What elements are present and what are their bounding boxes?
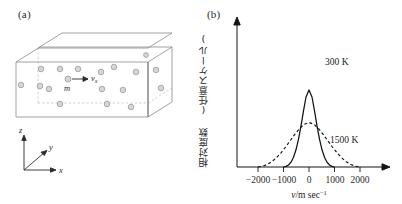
gas-molecule <box>133 69 139 75</box>
axis-label-y: y <box>48 142 53 152</box>
curve-label-1500k: 1500 K <box>330 135 358 145</box>
x-tick-label: −2000 <box>246 175 271 185</box>
mass-label: m <box>64 83 70 93</box>
coordinate-axes <box>22 135 56 172</box>
gas-molecule <box>153 67 159 73</box>
curve-300k <box>284 90 335 167</box>
gas-molecule <box>99 86 105 92</box>
gas-molecule <box>158 85 164 91</box>
y-axis <box>234 17 240 167</box>
axis-label-x: x <box>58 165 63 175</box>
gas-molecule <box>65 76 71 82</box>
gas-molecule <box>120 87 126 93</box>
axis-label-z: z <box>18 125 23 135</box>
x-tick-label: 0 <box>307 175 312 185</box>
gas-molecule <box>18 82 24 88</box>
gas-molecule <box>128 104 134 110</box>
distribution-chart-svg: −2000 −1000 0 1000 2000 v/m sec−1 300 K … <box>196 0 402 204</box>
gas-molecule <box>98 69 104 75</box>
gas-box-svg: vx m z x y <box>0 0 200 204</box>
x-tick-label: 2000 <box>351 175 370 185</box>
x-axis-caption: v/m sec−1 <box>291 189 327 201</box>
gas-molecule <box>111 64 117 70</box>
gas-molecule <box>37 83 43 89</box>
figure-root: (a) <box>0 0 402 204</box>
x-tick-label: 1000 <box>326 175 345 185</box>
gas-molecule <box>57 66 63 72</box>
curve-label-300k: 300 K <box>325 57 349 67</box>
panel-b-velocity-distribution-chart: −2000 −1000 0 1000 2000 v/m sec−1 300 K … <box>196 0 402 204</box>
gas-molecule <box>46 86 52 92</box>
gas-molecule <box>38 66 44 72</box>
velocity-label: vx <box>91 73 98 84</box>
panel-a-gas-box-diagram: vx m z x y <box>0 0 200 204</box>
x-tick-label: −1000 <box>272 175 297 185</box>
x-axis-ticks <box>258 167 360 172</box>
gas-molecule <box>144 53 149 58</box>
gas-molecule <box>57 101 63 107</box>
gas-molecule <box>104 101 110 107</box>
velocity-arrow <box>72 77 88 82</box>
box-hidden-edges <box>38 48 172 103</box>
x-axis-tick-labels: −2000 −1000 0 1000 2000 <box>246 175 370 185</box>
gas-molecule <box>75 66 81 72</box>
